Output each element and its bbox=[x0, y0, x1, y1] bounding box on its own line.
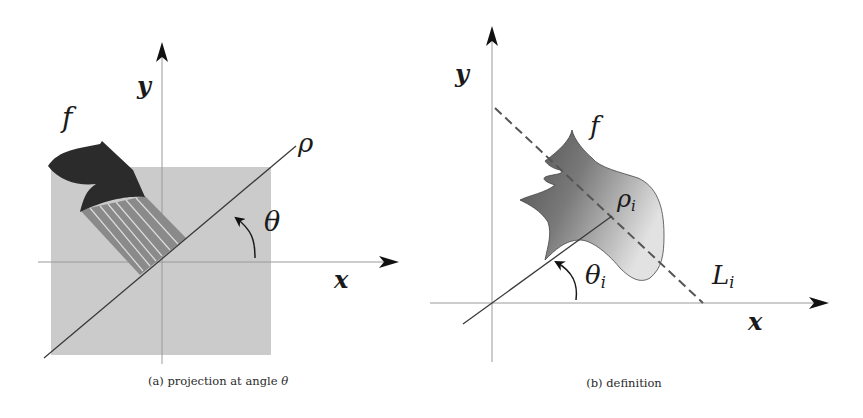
diagram-canvas bbox=[0, 0, 863, 418]
panel-b-rho-i-label: ρi bbox=[617, 187, 636, 214]
theta-i-arrow-icon bbox=[556, 262, 576, 300]
panel-a-caption: (a) projection at angle θ bbox=[148, 374, 288, 388]
figure: y f ρ θ x (a) projection at angle θ y f … bbox=[0, 0, 863, 418]
panel-b-y-label: y bbox=[455, 62, 469, 86]
panel-a-rho-label: ρ bbox=[298, 130, 313, 156]
panel-b-L-i-label: Li bbox=[712, 262, 734, 291]
panel-b-caption: (b) definition bbox=[586, 376, 662, 390]
panel-a bbox=[38, 42, 399, 364]
panel-a-function-label: f bbox=[62, 104, 72, 132]
L-subscript: i bbox=[729, 273, 734, 292]
theta-subscript: i bbox=[601, 273, 606, 292]
panel-a-y-label: y bbox=[137, 74, 151, 98]
panel-a-caption-text: (a) projection at angle bbox=[148, 374, 281, 388]
panel-b-x-label: x bbox=[748, 310, 762, 334]
panel-a-caption-symbol: θ bbox=[281, 374, 288, 388]
panel-a-theta-label: θ bbox=[264, 208, 280, 235]
panel-b-theta-i-label: θi bbox=[585, 262, 606, 291]
panel-b-function-label: f bbox=[590, 113, 600, 139]
L-symbol: L bbox=[712, 260, 729, 290]
theta-symbol: θ bbox=[585, 260, 601, 290]
rho-symbol: ρ bbox=[617, 185, 631, 213]
rho-subscript: i bbox=[631, 197, 636, 215]
panel-a-x-label: x bbox=[334, 268, 348, 292]
